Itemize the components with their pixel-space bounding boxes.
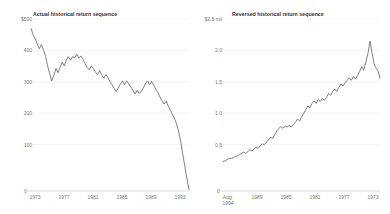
right-xtick-4: 1977 xyxy=(338,194,349,200)
right-data-line xyxy=(223,41,380,161)
left-xtick-0: 1973 xyxy=(29,194,40,200)
left-ytick-4: 100 xyxy=(4,142,32,148)
right-ytick-0: $2.5 mil xyxy=(204,16,222,22)
right-ytick-1: 2.0 xyxy=(200,47,222,53)
right-xtick-5: 1973 xyxy=(367,194,378,200)
right-ytick-3: 1.0 xyxy=(200,110,222,116)
left-xtick-1: 1977 xyxy=(58,194,69,200)
chart-panel-left: Actual historical return sequence $500 4… xyxy=(0,0,196,214)
right-xtick-1: 1989 xyxy=(251,194,262,200)
chart-page: Actual historical return sequence $500 4… xyxy=(0,0,390,214)
left-ytick-2: 300 xyxy=(4,79,32,85)
left-xtick-2: 1981 xyxy=(87,194,98,200)
left-xtick-4: 1989 xyxy=(145,194,156,200)
left-plot-area xyxy=(31,19,189,191)
chart-panel-right: Reversed historical return sequence $2.5… xyxy=(196,0,390,214)
left-xtick-5: 1993 xyxy=(174,194,185,200)
left-xtick-3: 1985 xyxy=(116,194,127,200)
right-gridlines xyxy=(223,19,380,145)
left-line-chart xyxy=(31,19,189,191)
right-xtick-0: Aug. 1994 xyxy=(222,194,233,206)
left-data-line xyxy=(31,28,189,189)
right-ytick-4: 0.5 xyxy=(200,142,222,148)
right-xtick-2: 1985 xyxy=(280,194,291,200)
right-ytick-2: 1.5 xyxy=(200,79,222,85)
left-ytick-3: 200 xyxy=(4,110,32,116)
left-ytick-0: $500 xyxy=(4,16,32,22)
left-chart-title: Actual historical return sequence xyxy=(33,11,117,17)
left-ytick-1: 400 xyxy=(4,47,32,53)
right-chart-title: Reversed historical return sequence xyxy=(232,11,324,17)
right-line-chart xyxy=(223,19,380,191)
right-xtick-3: 1981 xyxy=(309,194,320,200)
right-plot-area xyxy=(223,19,380,191)
right-xtick-0-line2: 1994 xyxy=(222,200,233,206)
